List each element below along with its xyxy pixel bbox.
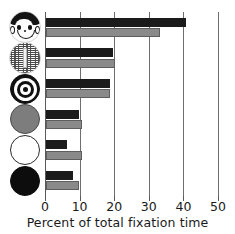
bar-gray-series-black-disk <box>46 181 79 190</box>
gridline-40 <box>183 12 184 196</box>
x-tick-label-row: 01020304050 <box>0 199 235 215</box>
bar-gray-series-scrambled-face <box>46 59 115 68</box>
tickmark-0 <box>45 196 46 201</box>
bar-black-series-bullseye <box>46 79 110 88</box>
bar-black-series-face <box>46 18 186 27</box>
x-tick-label: 0 <box>30 199 60 214</box>
tickmark-10 <box>80 196 81 201</box>
white-disk-icon <box>10 135 40 165</box>
gridline-20 <box>114 12 115 196</box>
x-axis-title: Percent of total fixation time <box>0 215 235 230</box>
category-icon-cell <box>4 135 45 166</box>
bullseye-icon <box>10 74 40 104</box>
tickmark-20 <box>114 196 115 201</box>
bar-black-series-gray-disk <box>46 110 79 119</box>
category-icon-cell <box>4 43 45 74</box>
category-icon-cell <box>4 12 45 43</box>
face-icon <box>9 11 41 43</box>
black-disk-icon <box>10 166 40 196</box>
category-icon-cell <box>4 73 45 104</box>
x-tick-label: 20 <box>99 199 129 214</box>
gridline-50 <box>218 12 219 196</box>
tickmark-40 <box>183 196 184 201</box>
bar-gray-series-gray-disk <box>46 120 82 129</box>
category-icon-column <box>4 12 45 196</box>
fixation-time-bar-chart: 01020304050 Percent of total fixation ti… <box>0 0 235 234</box>
plot-area <box>45 12 218 196</box>
bar-gray-series-face <box>46 28 160 37</box>
x-tick-label: 30 <box>134 199 164 214</box>
category-icon-cell <box>4 104 45 135</box>
bar-black-series-black-disk <box>46 171 73 180</box>
gridline-30 <box>149 12 150 196</box>
bar-black-series-white-disk <box>46 140 67 149</box>
gray-disk-icon <box>10 104 40 134</box>
bar-gray-series-white-disk <box>46 151 82 160</box>
scrambled-face-icon <box>9 42 41 74</box>
gridline-0 <box>45 12 46 196</box>
tickmark-50 <box>218 196 219 201</box>
category-icon-cell <box>4 165 45 196</box>
tickmark-30 <box>149 196 150 201</box>
bar-gray-series-bullseye <box>46 89 110 98</box>
gridline-10 <box>80 12 81 196</box>
bar-black-series-scrambled-face <box>46 48 113 57</box>
x-tick-label: 10 <box>65 199 95 214</box>
x-tick-label: 50 <box>203 199 233 214</box>
x-tick-label: 40 <box>168 199 198 214</box>
